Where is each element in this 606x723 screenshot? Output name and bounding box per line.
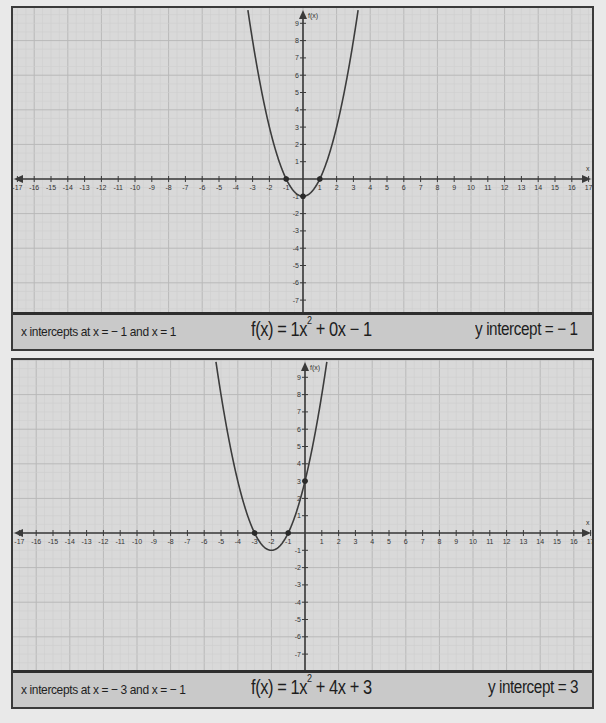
x-tick-label: 17 xyxy=(587,538,592,545)
graph-panel-1: xf(x)-17-16-15-14-13-12-11-10-9-8-7-6-5-… xyxy=(11,6,594,351)
y-tick-label: 9 xyxy=(297,374,301,381)
x-tick-label: -10 xyxy=(130,184,140,191)
x-tick-label: 12 xyxy=(501,184,509,191)
x-axis-label: x xyxy=(586,165,590,172)
equation-prefix: f(x) = 1x xyxy=(251,318,307,340)
y-tick-label: 8 xyxy=(295,37,299,44)
x-tick-label: 13 xyxy=(518,184,526,191)
x-tick-label: -8 xyxy=(165,184,171,191)
x-tick-label: -3 xyxy=(251,538,257,545)
y-intercept-label: y intercept = − 1 xyxy=(476,319,578,340)
x-tick-label: 5 xyxy=(385,184,389,191)
x-tick-label: 6 xyxy=(402,184,406,191)
x-tick-label: -4 xyxy=(233,184,239,191)
x-tick-label: 14 xyxy=(534,184,542,191)
x-tick-label: -17 xyxy=(14,538,24,545)
x-tick-label: -15 xyxy=(48,538,58,545)
y-tick-label: 7 xyxy=(295,54,299,61)
x-tick-label: 12 xyxy=(503,538,511,545)
x-tick-label: -13 xyxy=(82,538,92,545)
marked-point xyxy=(252,530,258,536)
plot-area-2: xf(x)-17-16-15-14-13-12-11-10-9-8-7-6-5-… xyxy=(13,360,592,671)
x-axis-label: x xyxy=(586,519,590,526)
x-tick-label: -4 xyxy=(235,538,241,545)
x-tick-label: -9 xyxy=(149,184,155,191)
x-tick-label: 16 xyxy=(570,538,578,545)
marked-point xyxy=(317,176,323,182)
x-tick-label: -2 xyxy=(268,538,274,545)
x-tick-label: -6 xyxy=(201,538,207,545)
y-tick-label: 2 xyxy=(295,141,299,148)
marked-point xyxy=(283,176,289,182)
x-tick-label: 9 xyxy=(454,538,458,545)
x-tick-label: -1 xyxy=(283,184,289,191)
x-tick-label: -12 xyxy=(98,538,108,545)
equation-prefix: f(x) = 1x xyxy=(251,676,307,698)
axes: xf(x)-17-16-15-14-13-12-11-10-9-8-7-6-5-… xyxy=(14,362,592,671)
y-tick-label: -7 xyxy=(295,651,301,658)
x-tick-label: 10 xyxy=(469,538,477,545)
x-tick-label: 13 xyxy=(520,538,528,545)
y-tick-label: 5 xyxy=(295,89,299,96)
y-tick-label: 5 xyxy=(297,443,301,450)
x-tick-label: 3 xyxy=(353,538,357,545)
x-tick-label: 16 xyxy=(568,184,576,191)
x-axis-right-arrow-icon xyxy=(582,175,591,183)
x-tick-label: 11 xyxy=(486,538,493,545)
x-tick-label: 6 xyxy=(404,538,408,545)
y-axis-label: f(x) xyxy=(310,364,320,372)
x-tick-label: 8 xyxy=(437,538,441,545)
x-tick-label: -8 xyxy=(167,538,173,545)
y-tick-label: -3 xyxy=(295,581,301,588)
y-tick-label: -2 xyxy=(295,564,301,571)
y-tick-label: 6 xyxy=(295,72,299,79)
x-tick-label: -7 xyxy=(184,538,190,545)
y-tick-label: -6 xyxy=(293,279,299,286)
y-axis-label: f(x) xyxy=(308,12,318,20)
y-tick-label: 8 xyxy=(297,391,301,398)
x-tick-label: 8 xyxy=(435,184,439,191)
y-tick-label: 6 xyxy=(297,426,301,433)
y-tick-label: 4 xyxy=(297,460,301,467)
y-tick-label: 1 xyxy=(295,158,299,165)
x-tick-label: -14 xyxy=(65,538,75,545)
y-tick-label: -6 xyxy=(295,633,301,640)
x-tick-label: -3 xyxy=(249,184,255,191)
y-intercept-label: y intercept = 3 xyxy=(488,677,578,698)
y-tick-label: -1 xyxy=(295,547,301,554)
caption-bar-1: x intercepts at x = − 1 and x = 1 f(x) =… xyxy=(13,312,592,349)
x-tick-label: -1 xyxy=(285,538,291,545)
y-tick-label: -7 xyxy=(293,297,299,304)
plot-area-1: xf(x)-17-16-15-14-13-12-11-10-9-8-7-6-5-… xyxy=(13,8,592,313)
equation-suffix: + 4x + 3 xyxy=(312,676,372,698)
x-tick-label: -7 xyxy=(182,184,188,191)
x-tick-label: 9 xyxy=(452,184,456,191)
x-tick-label: -2 xyxy=(266,184,272,191)
x-tick-label: 3 xyxy=(351,184,355,191)
y-tick-label: 3 xyxy=(295,124,299,131)
equation-label: f(x) = 1x2 + 4x + 3 xyxy=(251,676,372,699)
y-tick-label: 7 xyxy=(297,408,301,415)
equation-suffix: + 0x − 1 xyxy=(312,318,372,340)
x-tick-label: 4 xyxy=(368,184,372,191)
equation-label: f(x) = 1x2 + 0x − 1 xyxy=(251,318,372,341)
equation-exponent: 2 xyxy=(307,672,312,684)
x-axis-left-arrow-icon xyxy=(14,175,23,183)
y-tick-label: -2 xyxy=(293,210,299,217)
x-tick-label: 2 xyxy=(335,184,339,191)
x-tick-label: -11 xyxy=(115,538,125,545)
x-tick-label: 17 xyxy=(585,184,592,191)
x-tick-label: -5 xyxy=(218,538,224,545)
y-tick-label: 4 xyxy=(295,106,299,113)
x-tick-label: 1 xyxy=(320,538,324,545)
x-axis-right-arrow-icon xyxy=(582,529,591,537)
x-tick-label: -9 xyxy=(151,538,157,545)
x-tick-label: -12 xyxy=(96,184,106,191)
x-tick-label: -16 xyxy=(29,184,39,191)
y-tick-label: -3 xyxy=(293,227,299,234)
x-tick-label: 5 xyxy=(387,538,391,545)
x-tick-label: -5 xyxy=(216,184,222,191)
graph-panel-2: xf(x)-17-16-15-14-13-12-11-10-9-8-7-6-5-… xyxy=(11,358,594,709)
x-tick-label: 4 xyxy=(370,538,374,545)
x-tick-label: -16 xyxy=(31,538,41,545)
